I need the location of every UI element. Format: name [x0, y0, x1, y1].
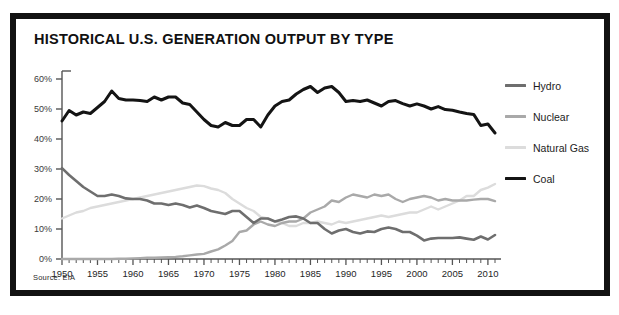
y-axis-tick-label: 10%: [34, 224, 52, 234]
legend-swatch-icon: [505, 177, 526, 180]
chart-figure-inner: HISTORICAL U.S. GENERATION OUTPUT BY TYP…: [16, 19, 604, 290]
legend-label: Hydro: [533, 80, 561, 92]
x-axis-tick-label: 2000: [406, 268, 427, 279]
x-axis-tick-label: 1980: [264, 268, 285, 279]
series-line-nuclear: [62, 195, 495, 260]
y-axis-tick-label: 0%: [39, 254, 52, 264]
chart-legend: HydroNuclearNatural GasCoal: [505, 71, 604, 195]
legend-swatch-icon: [505, 115, 526, 118]
legend-label: Natural Gas: [533, 142, 589, 154]
series-line-coal: [62, 87, 495, 134]
y-axis-tick-label: 30%: [34, 164, 52, 174]
x-axis-tick-label: 1990: [335, 268, 356, 279]
y-axis-tick-label: 60%: [34, 74, 52, 84]
legend-item[interactable]: Natural Gas: [505, 133, 604, 162]
x-axis-tick-label: 1960: [122, 268, 143, 279]
legend-label: Coal: [533, 173, 555, 185]
x-axis-tick-label: 1995: [371, 268, 392, 279]
source-note: Source: EIA: [33, 273, 75, 282]
x-axis-tick-label: 1955: [87, 268, 108, 279]
x-axis-tick-label: 2005: [442, 268, 463, 279]
series-line-hydro: [62, 168, 495, 240]
y-axis-tick-label: 40%: [34, 134, 52, 144]
x-axis-tick-label: 1985: [300, 268, 321, 279]
y-axis-tick-label: 50%: [34, 104, 52, 114]
y-axis-tick-label: 20%: [34, 194, 52, 204]
chart-figure-frame: HISTORICAL U.S. GENERATION OUTPUT BY TYP…: [10, 13, 610, 296]
x-axis-tick-label: 1970: [193, 268, 214, 279]
legend-swatch-icon: [505, 84, 526, 87]
legend-label: Nuclear: [533, 111, 569, 123]
x-axis-tick-label: 1975: [229, 268, 250, 279]
legend-item[interactable]: Nuclear: [505, 102, 604, 131]
x-axis-tick-label: 1965: [158, 268, 179, 279]
x-axis-tick-label: 2010: [477, 268, 498, 279]
legend-item[interactable]: Coal: [505, 164, 604, 193]
legend-item[interactable]: Hydro: [505, 71, 604, 100]
legend-swatch-icon: [505, 146, 526, 149]
